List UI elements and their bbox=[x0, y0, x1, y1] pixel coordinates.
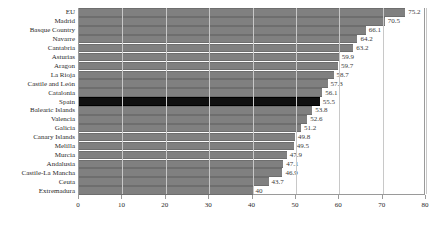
bar-row: 59.7 bbox=[79, 62, 424, 71]
bar-row: 64.2 bbox=[79, 35, 424, 44]
bar-row: 49.8 bbox=[79, 133, 424, 142]
x-tick-label-60: 60 bbox=[335, 201, 342, 209]
bar-value-label: 64.2 bbox=[357, 35, 372, 43]
bar-row: 53.8 bbox=[79, 106, 424, 115]
x-tick-mark-40 bbox=[252, 195, 253, 199]
gridline-80 bbox=[426, 8, 427, 194]
bar-row: 51.2 bbox=[79, 124, 424, 133]
bar-value-label: 43.7 bbox=[269, 178, 284, 186]
bar-value-label: 58.7 bbox=[334, 71, 349, 79]
category-label-castile-and-le-n: Castile and León bbox=[28, 80, 75, 88]
bar-row: 46.9 bbox=[79, 168, 424, 177]
category-label-melilla: Melilla bbox=[55, 142, 75, 150]
x-tick-mark-50 bbox=[295, 195, 296, 199]
x-tick-mark-70 bbox=[382, 195, 383, 199]
category-label-ceuta: Ceuta bbox=[59, 178, 75, 186]
bar-cantabria bbox=[79, 44, 353, 53]
gridline-60 bbox=[339, 8, 340, 194]
bar-chart: EUMadridBasque CountryNavarreCantabriaAs… bbox=[0, 0, 442, 229]
bar-navarre bbox=[79, 35, 357, 44]
bar-value-label: 70.5 bbox=[385, 17, 400, 25]
gridline-10 bbox=[122, 8, 123, 194]
category-label-aragon: Aragon bbox=[54, 62, 75, 70]
bar-valencia bbox=[79, 115, 307, 124]
bar-melilla bbox=[79, 142, 294, 151]
category-label-asturias: Asturias bbox=[52, 53, 75, 61]
x-tick-label-50: 50 bbox=[291, 201, 298, 209]
bar-value-label: 66.1 bbox=[366, 26, 381, 34]
bar-rows: 75.270.566.164.263.259.959.758.757.356.1… bbox=[79, 8, 424, 194]
category-label-castile-la-mancha: Castile-La Mancha bbox=[22, 169, 75, 177]
plot-area: 75.270.566.164.263.259.959.758.757.356.1… bbox=[78, 8, 425, 195]
bar-row: 55.5 bbox=[79, 97, 424, 106]
bar-row: 75.2 bbox=[79, 8, 424, 17]
bar-balearic-islands bbox=[79, 106, 312, 115]
gridline-40 bbox=[253, 8, 254, 194]
bar-canary-islands bbox=[79, 133, 295, 142]
category-label-cantabria: Cantabria bbox=[48, 44, 75, 52]
x-tick-label-0: 0 bbox=[76, 201, 80, 209]
bar-row: 59.9 bbox=[79, 53, 424, 62]
x-tick-mark-20 bbox=[165, 195, 166, 199]
bar-row: 40 bbox=[79, 186, 424, 195]
bar-galicia bbox=[79, 124, 301, 133]
bar-value-label: 55.5 bbox=[320, 98, 335, 106]
x-tick-mark-10 bbox=[121, 195, 122, 199]
category-label-navarre: Navarre bbox=[52, 35, 75, 43]
bar-row: 66.1 bbox=[79, 26, 424, 35]
x-tick-label-30: 30 bbox=[205, 201, 212, 209]
bar-value-label: 59.9 bbox=[339, 53, 354, 61]
bar-catalonia bbox=[79, 88, 322, 97]
gridline-50 bbox=[296, 8, 297, 194]
category-label-balearic-islands: Balearic Islands bbox=[30, 106, 75, 114]
category-axis-labels: EUMadridBasque CountryNavarreCantabriaAs… bbox=[0, 8, 75, 195]
x-tick-label-70: 70 bbox=[378, 201, 385, 209]
bar-row: 57.3 bbox=[79, 79, 424, 88]
bar-value-label: 40 bbox=[253, 187, 263, 195]
category-label-andalusia: Andalusia bbox=[47, 160, 75, 168]
category-label-basque-country: Basque Country bbox=[30, 26, 75, 34]
bar-eu bbox=[79, 8, 405, 17]
category-label-valencia: Valencia bbox=[51, 115, 75, 123]
bar-ceuta bbox=[79, 177, 269, 186]
category-label-spain: Spain bbox=[59, 98, 75, 106]
bar-value-label: 47.9 bbox=[287, 151, 302, 159]
category-label-extremadura: Extremadura bbox=[39, 187, 75, 195]
bar-row: 58.7 bbox=[79, 71, 424, 80]
x-tick-label-10: 10 bbox=[118, 201, 125, 209]
bar-spain bbox=[79, 97, 320, 106]
x-tick-label-80: 80 bbox=[422, 201, 429, 209]
bar-row: 63.2 bbox=[79, 44, 424, 53]
category-label-canary-islands: Canary Islands bbox=[33, 133, 75, 141]
gridline-70 bbox=[383, 8, 384, 194]
category-label-la-rioja: La Rioja bbox=[51, 71, 75, 79]
gridline-30 bbox=[209, 8, 210, 194]
bar-row: 56.1 bbox=[79, 88, 424, 97]
category-label-galicia: Galicia bbox=[55, 124, 75, 132]
bar-value-label: 51.2 bbox=[301, 124, 316, 132]
bar-row: 49.5 bbox=[79, 142, 424, 151]
bar-value-label: 63.2 bbox=[353, 44, 368, 52]
bar-value-label: 56.1 bbox=[322, 89, 337, 97]
category-label-madrid: Madrid bbox=[54, 17, 75, 25]
bar-value-label: 57.3 bbox=[328, 80, 343, 88]
category-label-catalonia: Catalonia bbox=[48, 89, 75, 97]
category-label-eu: EU bbox=[66, 8, 75, 16]
bar-value-label: 49.8 bbox=[295, 133, 310, 141]
bar-row: 47.1 bbox=[79, 160, 424, 169]
bar-value-label: 75.2 bbox=[405, 8, 420, 16]
gridline-20 bbox=[166, 8, 167, 194]
bar-value-label: 53.8 bbox=[312, 106, 327, 114]
x-tick-label-20: 20 bbox=[161, 201, 168, 209]
bar-row: 43.7 bbox=[79, 177, 424, 186]
bar-value-label: 52.6 bbox=[307, 115, 322, 123]
category-label-murcia: Murcia bbox=[55, 151, 75, 159]
bar-row: 70.5 bbox=[79, 17, 424, 26]
bar-castile-and-le-n bbox=[79, 79, 328, 88]
bar-row: 52.6 bbox=[79, 115, 424, 124]
x-tick-mark-60 bbox=[338, 195, 339, 199]
x-tick-mark-80 bbox=[425, 195, 426, 199]
x-tick-mark-30 bbox=[208, 195, 209, 199]
x-tick-mark-0 bbox=[78, 195, 79, 199]
bar-murcia bbox=[79, 151, 287, 160]
